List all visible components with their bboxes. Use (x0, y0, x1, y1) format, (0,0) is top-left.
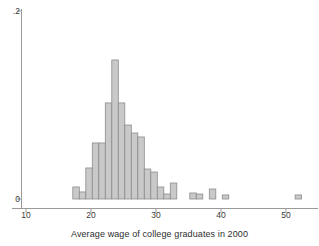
histogram-bar (125, 125, 132, 199)
x-axis-title: Average wage of college graduates in 200… (0, 229, 319, 239)
histogram-bar (112, 60, 119, 199)
histogram-bar (118, 103, 125, 199)
histogram-bar (157, 187, 164, 199)
histogram-chart: .2 0 10 20 30 40 50 Average wage of coll… (0, 0, 319, 246)
histogram-bar (151, 172, 158, 199)
histogram-bar (131, 133, 138, 199)
x-tick-label-30: 30 (144, 211, 168, 220)
y-tick-label-0: 0 (2, 195, 20, 204)
x-tick-label-50: 50 (274, 211, 298, 220)
plot-area: .2 0 10 20 30 40 50 (0, 0, 319, 246)
histogram-bar (190, 193, 197, 199)
histogram-bar (222, 195, 229, 199)
y-tick-label-0-2: .2 (2, 7, 20, 16)
histogram-bar (209, 189, 216, 199)
histogram-bar (170, 183, 177, 199)
histogram-bar (295, 195, 302, 199)
histogram-bar (144, 169, 151, 199)
x-tick-label-20: 20 (79, 211, 103, 220)
histogram-bar (105, 103, 112, 199)
histogram-bar (79, 192, 86, 199)
histogram-bar (164, 194, 171, 199)
x-tick-label-10: 10 (14, 211, 38, 220)
histogram-bar (138, 137, 145, 199)
x-tick-label-40: 40 (209, 211, 233, 220)
histogram-bar (86, 168, 93, 199)
histogram-bar (73, 187, 80, 199)
histogram-bar (92, 143, 99, 199)
bars-group (73, 60, 302, 199)
histogram-bar (196, 194, 203, 199)
histogram-bar (99, 143, 106, 199)
